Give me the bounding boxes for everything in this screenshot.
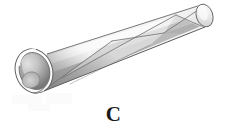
- figure-container: C: [0, 0, 227, 134]
- tube-open-end: [9, 44, 58, 98]
- tube-body-group: [34, 4, 213, 93]
- figure-label: C: [0, 104, 227, 125]
